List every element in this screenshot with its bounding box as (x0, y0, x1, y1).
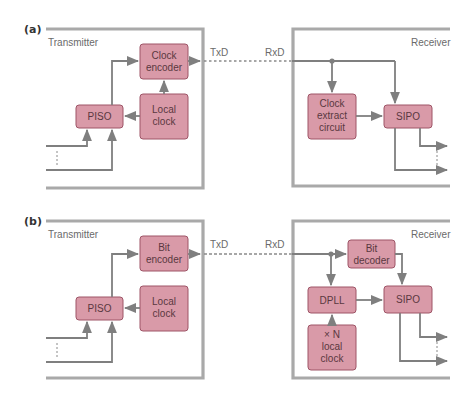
svg-text:local: local (322, 341, 343, 352)
dpll-block: DPLL (308, 287, 356, 313)
svg-text:Clock: Clock (151, 50, 177, 61)
receiver-label-a: Receiver (411, 37, 451, 48)
svg-text:extract: extract (317, 110, 347, 121)
svg-text:encoder: encoder (146, 62, 183, 73)
svg-text:decoder: decoder (353, 255, 390, 266)
svg-text:Clock: Clock (319, 98, 345, 109)
svg-text:PISO: PISO (88, 303, 112, 314)
txd-label-a: TxD (210, 47, 228, 58)
svg-text:clock: clock (153, 116, 177, 127)
piso-block-b: PISO (76, 297, 123, 320)
local-clock-block-a: Local clock (140, 94, 188, 139)
txd-label-b: TxD (210, 239, 228, 250)
svg-text:DPLL: DPLL (319, 295, 344, 306)
transmitter-label-a: Transmitter (48, 37, 99, 48)
svg-text:Local: Local (152, 104, 176, 115)
sipo-block-b: SIPO (384, 286, 432, 313)
svg-text:circuit: circuit (319, 122, 345, 133)
clock-encoder-block: Clock encoder (140, 44, 188, 79)
clock-extract-circuit-block: Clock extract circuit (308, 94, 356, 139)
svg-text:clock: clock (321, 353, 345, 364)
piso-block-a: PISO (76, 105, 123, 128)
local-clock-block-b: Local clock (140, 286, 188, 331)
bit-decoder-block: Bit decoder (348, 240, 395, 268)
svg-text:PISO: PISO (88, 111, 112, 122)
serial-transmission-diagram: (a) Transmitter Clock encoder Local cloc… (0, 0, 475, 395)
svg-text:encoder: encoder (146, 254, 183, 265)
svg-text:SIPO: SIPO (396, 294, 420, 305)
panel-a-tag: (a) (24, 23, 41, 36)
svg-text:Bit: Bit (158, 242, 170, 253)
svg-text:Bit: Bit (366, 243, 378, 254)
svg-text:clock: clock (153, 308, 177, 319)
rxd-label-b: RxD (265, 239, 284, 250)
transmitter-label-b: Transmitter (48, 229, 99, 240)
svg-text:SIPO: SIPO (396, 111, 420, 122)
rxd-label-a: RxD (265, 47, 284, 58)
panel-b: (b) Transmitter Bit encoder Local clock … (24, 215, 451, 378)
panel-a: (a) Transmitter Clock encoder Local cloc… (24, 23, 451, 188)
svg-text:× N: × N (324, 329, 340, 340)
xn-local-clock-block: × N local clock (308, 325, 356, 370)
panel-b-tag: (b) (24, 215, 42, 228)
bit-encoder-block: Bit encoder (140, 236, 188, 271)
sipo-block-a: SIPO (384, 105, 432, 128)
receiver-label-b: Receiver (411, 229, 451, 240)
svg-text:Local: Local (152, 296, 176, 307)
